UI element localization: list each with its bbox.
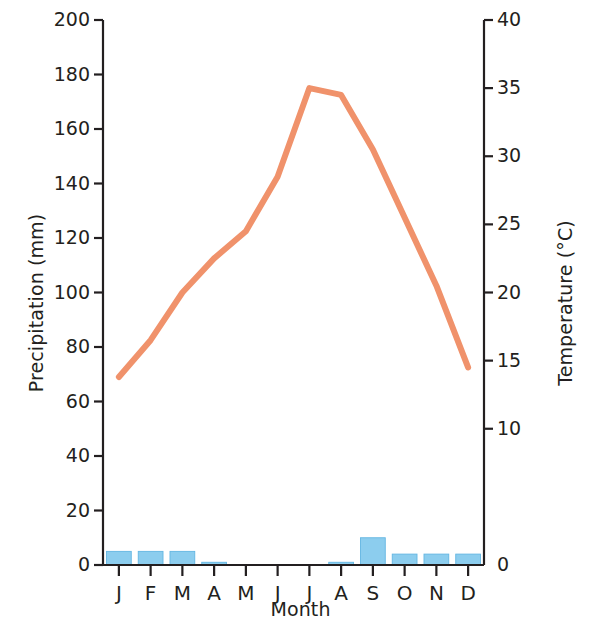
precipitation-bar-december [456,554,481,565]
precipitation-bar-february [138,551,163,565]
precipitation-bar-november [424,554,449,565]
precipitation-bar-march [170,551,195,565]
precipitation-bar-september [360,538,385,565]
precipitation-bar-october [392,554,417,565]
precipitation-bar-january [106,551,131,565]
plot-area [0,0,601,636]
temperature-line [119,88,468,377]
climograph-chart: Precipitation (mm) Temperature (°C) Mont… [0,0,601,636]
precipitation-bars-group [106,538,480,565]
axis-lines-group [94,20,493,576]
